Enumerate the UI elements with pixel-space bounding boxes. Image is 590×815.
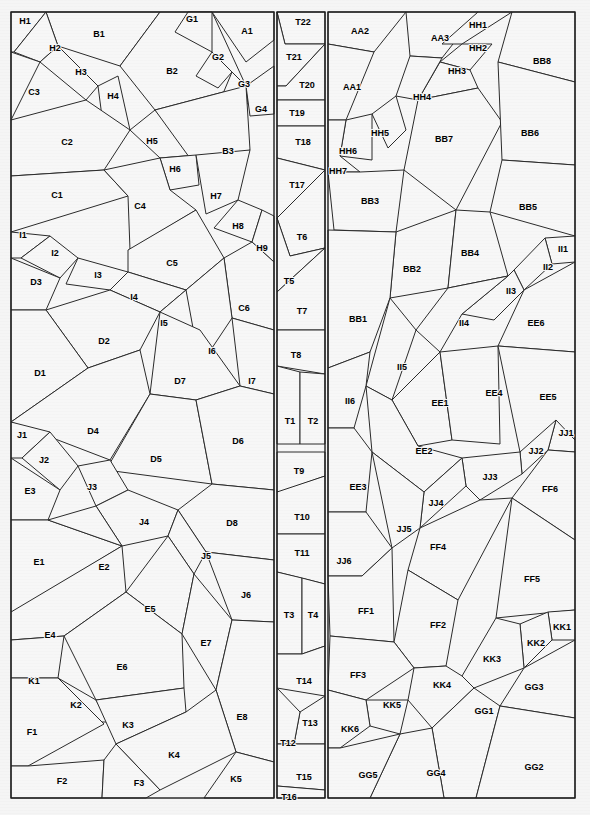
cell-label-d4: D4 [87, 426, 99, 436]
cell-label-h9: H9 [256, 243, 268, 253]
cell-label-hh3: HH3 [448, 66, 466, 76]
cell-label-c3: C3 [28, 87, 40, 97]
cell-label-aa3: AA3 [431, 33, 449, 43]
cell-label-hh6: HH6 [339, 146, 357, 156]
cell-label-e8: E8 [236, 712, 247, 722]
cell-label-f3: F3 [134, 778, 145, 788]
cell-label-j5: J5 [201, 551, 211, 561]
cell-label-i3: I3 [94, 270, 102, 280]
cell-label-t22: T22 [295, 17, 311, 27]
cell-label-g1: G1 [186, 14, 198, 24]
cell-label-i1: I1 [19, 230, 27, 240]
cell-t1[interactable] [277, 366, 300, 444]
cell-label-ii6: II6 [345, 396, 355, 406]
cell-label-bb6: BB6 [521, 128, 539, 138]
cell-label-i4: I4 [130, 292, 138, 302]
cell-label-t20: T20 [299, 80, 315, 90]
cell-label-b1: B1 [93, 29, 105, 39]
cell-label-d1: D1 [34, 368, 46, 378]
cell-label-d2: D2 [98, 336, 110, 346]
cell-label-k2: K2 [70, 700, 82, 710]
cell-label-aa2: AA2 [351, 26, 369, 36]
cell-label-e2: E2 [98, 562, 109, 572]
cell-label-c6: C6 [238, 303, 250, 313]
cell-label-c1: C1 [51, 190, 63, 200]
cell-label-aa1: AA1 [343, 82, 361, 92]
cell-label-c4: C4 [134, 201, 146, 211]
cell-label-k4: K4 [168, 750, 180, 760]
cell-label-f2: F2 [57, 776, 68, 786]
cell-label-t13: T13 [302, 718, 318, 728]
cell-label-t9: T9 [294, 466, 305, 476]
cell-label-ee3: EE3 [349, 482, 366, 492]
cell-label-h7: H7 [210, 191, 222, 201]
cell-label-j3: J3 [87, 482, 97, 492]
cell-label-t21: T21 [286, 52, 302, 62]
cell-label-b3: B3 [222, 146, 234, 156]
cell-label-ii4: II4 [459, 318, 469, 328]
cell-t15[interactable] [277, 744, 325, 790]
cell-label-t3: T3 [284, 610, 295, 620]
cell-label-kk1: KK1 [553, 622, 571, 632]
cell-label-b2: B2 [166, 66, 178, 76]
cell-label-kk2: KK2 [527, 638, 545, 648]
cell-label-gg5: GG5 [358, 770, 377, 780]
cell-label-a1: A1 [241, 26, 253, 36]
cell-label-t10: T10 [294, 512, 310, 522]
cell-label-t8: T8 [291, 350, 302, 360]
cell-label-h8: H8 [232, 221, 244, 231]
cell-label-d7: D7 [174, 376, 186, 386]
cell-label-h2: H2 [49, 43, 61, 53]
cell-label-gg4: GG4 [426, 768, 445, 778]
cell-label-d8: D8 [226, 518, 238, 528]
cell-label-t6: T6 [297, 232, 308, 242]
cell-label-t2: T2 [308, 416, 319, 426]
cell-label-g2: G2 [212, 52, 224, 62]
cell-label-e1: E1 [33, 557, 44, 567]
cell-label-e6: E6 [116, 662, 127, 672]
cell-label-h6: H6 [169, 164, 181, 174]
cell-label-t15: T15 [296, 772, 312, 782]
cell-label-h4: H4 [107, 91, 119, 101]
cell-label-ii3: II3 [506, 286, 516, 296]
cell-label-hh4: HH4 [413, 92, 431, 102]
cell-label-j4: J4 [139, 517, 149, 527]
cell-label-hh2: HH2 [469, 43, 487, 53]
cell-label-d3: D3 [30, 277, 42, 287]
cell-label-h5: H5 [146, 136, 158, 146]
cell-label-h1: H1 [19, 16, 31, 26]
cell-label-k3: K3 [122, 720, 134, 730]
cell-label-bb3: BB3 [361, 196, 379, 206]
cell-label-kk4: KK4 [433, 680, 451, 690]
cell-label-d6: D6 [232, 436, 244, 446]
cell-label-k1: K1 [28, 676, 40, 686]
cell-label-ii2: II2 [543, 262, 553, 272]
cell-label-c2: C2 [61, 137, 73, 147]
cell-label-ee6: EE6 [527, 318, 544, 328]
cell-label-hh1: HH1 [469, 20, 487, 30]
cell-label-bb2: BB2 [403, 264, 421, 274]
cell-label-ff5: FF5 [524, 574, 540, 584]
cell-label-bb1: BB1 [349, 314, 367, 324]
cell-label-ff6: FF6 [542, 484, 558, 494]
cell-label-d5: D5 [150, 454, 162, 464]
cell-label-i7: I7 [248, 376, 256, 386]
cell-label-e3: E3 [24, 486, 35, 496]
cell-label-ff4: FF4 [430, 542, 446, 552]
cell-label-hh7: HH7 [329, 166, 347, 176]
cell-label-t1: T1 [285, 416, 296, 426]
cell-label-gg2: GG2 [524, 762, 543, 772]
cell-label-i2: I2 [51, 248, 59, 258]
cell-label-t14: T14 [296, 676, 312, 686]
cell-label-j1: J1 [17, 430, 27, 440]
cell-label-ff3: FF3 [350, 670, 366, 680]
cell-label-bb5: BB5 [519, 202, 537, 212]
cell-t14[interactable] [277, 646, 325, 696]
cell-label-bb4: BB4 [461, 248, 479, 258]
cell-label-e5: E5 [144, 604, 155, 614]
cell-label-ff1: FF1 [358, 606, 374, 616]
cell-label-kk6: KK6 [341, 724, 359, 734]
cell-label-t19: T19 [289, 108, 305, 118]
cell-k1[interactable] [11, 636, 64, 678]
cell-t2[interactable] [300, 372, 325, 444]
